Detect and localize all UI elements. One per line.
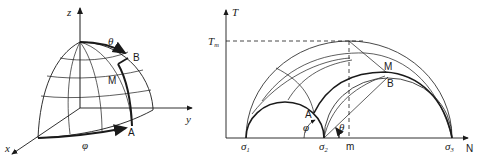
point-M-right: M [384,61,392,72]
phi-label-right: φ [303,121,309,133]
point-A-left: A [128,127,135,138]
t-axis-label: T [232,6,239,18]
sigma1-label: σ1 [241,140,250,153]
parallel-to-M-bold [118,58,128,64]
diagram-canvas: z y x θ B M A φ T Tm N σ1 σ2 m [0,0,482,163]
meridian [80,42,102,131]
sphere-outline-left [38,42,80,138]
theta-label-left: θ [108,35,114,47]
m-label: m [346,141,354,152]
sigma3-label: σ3 [445,140,454,153]
mohr-circle-figure [226,10,468,138]
point-M-left: M [108,75,116,86]
x-axis-label: x [4,142,10,154]
point-B-right: B [387,78,394,89]
z-axis-label: z [66,6,72,18]
sphere-octant-figure [12,8,192,154]
y-axis-label: y [185,113,191,125]
meridian-through-M-bold [118,64,132,126]
phi-label-left: φ [82,139,88,151]
parallel [60,52,128,60]
theta-label-right: θ [339,121,345,133]
meridian [68,42,80,134]
n-axis-label: N [466,143,473,154]
sphere-outline-right [80,42,153,110]
theta-arc-bold [80,42,125,53]
point-B-left: B [133,52,140,63]
tm-label: Tm [208,35,219,48]
parallel [41,90,151,98]
sigma2-label: σ2 [319,140,328,153]
theta-family-arc [288,60,352,100]
point-A-right: A [305,109,312,120]
